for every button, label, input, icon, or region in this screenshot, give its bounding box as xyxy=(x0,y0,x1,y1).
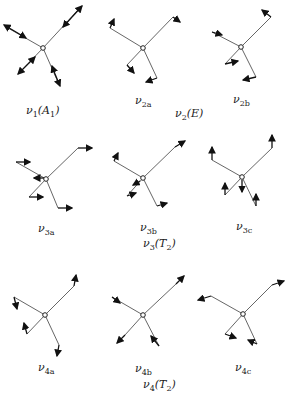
label-v1: ν1(A1) xyxy=(26,104,59,119)
vibration-modes-diagram xyxy=(0,0,296,403)
label-v4: ν4(T2) xyxy=(143,378,176,393)
label-v4c: ν4c xyxy=(235,361,251,376)
label-v3a: ν3a xyxy=(38,222,55,237)
label-v2a: ν2a xyxy=(135,94,152,109)
label-v3c: ν3c xyxy=(236,220,252,235)
label-v2: ν2(E) xyxy=(175,107,203,122)
label-v2b: ν2b xyxy=(233,93,250,108)
label-v4a: ν4a xyxy=(38,361,55,376)
molecule-v1 xyxy=(8,8,80,82)
label-v3: ν3(T2) xyxy=(143,237,176,252)
label-v3b: ν3b xyxy=(140,221,157,236)
label-v4b: ν4b xyxy=(135,362,152,377)
